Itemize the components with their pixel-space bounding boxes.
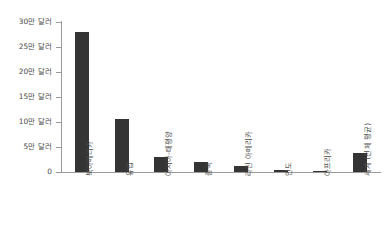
y-axis-tick-label: 15만 달러 <box>19 93 52 101</box>
x-axis-tick-label: 중국 <box>205 162 213 176</box>
y-axis-tick <box>56 147 61 148</box>
y-axis-tick <box>56 172 61 173</box>
plot-area <box>62 22 380 172</box>
x-axis-tick-label: 북아메리카 <box>86 141 94 177</box>
y-axis-tick-label: 0 <box>47 168 52 176</box>
y-axis-tick <box>56 22 61 23</box>
x-axis-tick-label: 아시아-태평양 <box>165 131 173 176</box>
x-axis-tick-label: 아프리카 <box>324 148 332 176</box>
y-axis-tick <box>56 47 61 48</box>
x-axis-tick-label: 세계 (전체 평균) <box>364 123 372 176</box>
y-axis-tick-label: 10만 달러 <box>19 118 52 126</box>
x-axis-line <box>61 172 381 173</box>
x-axis-tick-label: 라틴 아메리카 <box>245 131 253 176</box>
bar-chart: 05만 달러10만 달러15만 달러20만 달러25만 달러30만 달러 북아메… <box>0 0 390 243</box>
x-axis-tick-label: 인도 <box>285 162 293 176</box>
y-axis-tick-label: 25만 달러 <box>19 43 52 51</box>
y-axis-tick <box>56 72 61 73</box>
y-axis-tick-label: 5만 달러 <box>23 143 52 151</box>
y-axis-tick <box>56 97 61 98</box>
y-axis-tick <box>56 122 61 123</box>
x-axis-tick-label: 유럽 <box>126 162 134 176</box>
y-axis-tick-label: 30만 달러 <box>19 18 52 26</box>
y-axis-tick-label: 20만 달러 <box>19 68 52 76</box>
